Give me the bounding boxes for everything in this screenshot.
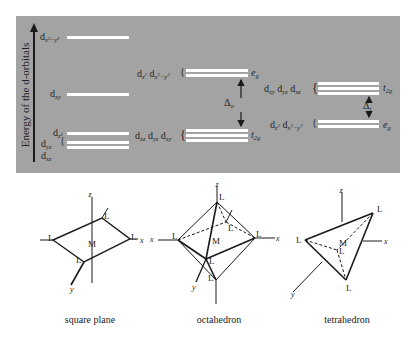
td-axis-x: x (383, 237, 388, 246)
oh-ligand-left: L (172, 231, 178, 241)
caption-square-plane: square plane (65, 314, 115, 325)
sq-ligand-right: L (131, 232, 137, 242)
sq-ligand-left: L (48, 233, 54, 243)
oh-axis-y: y (191, 283, 196, 292)
oh-axis-x-right: x (275, 234, 280, 243)
oh-ligand-front: L (209, 256, 215, 266)
oh-ligand-back: L (228, 223, 234, 233)
oh-ligand-right: L (256, 229, 262, 239)
oh-axis-z: z (214, 180, 219, 189)
oh-ligand-bottom: L (208, 273, 214, 283)
sq-axis-x: x (139, 236, 144, 245)
sq-metal: M (88, 239, 96, 249)
oh-metal: M (212, 236, 220, 246)
td-axis-y: y (290, 290, 295, 299)
caption-octahedron: octahedron (197, 314, 241, 325)
td-ligand-top-right: L (377, 204, 383, 214)
sq-axis-y: y (69, 285, 74, 294)
td-ligand-bottom: L (346, 283, 352, 293)
caption-tetrahedron: tetrahedron (324, 314, 370, 325)
oh-axis-x-left: x (149, 235, 154, 244)
sq-ligand-front: L (76, 255, 82, 265)
oh-ligand-top: L (219, 192, 225, 202)
tetrahedron-diagram (293, 192, 382, 292)
geometry-drawings: z x y L L L L M z x x y L L L L L L M (0, 0, 413, 337)
td-axis-z: z (338, 186, 343, 195)
td-ligand-left: L (296, 235, 302, 245)
td-metal: M (339, 238, 347, 248)
sq-ligand-top: L (104, 211, 110, 221)
